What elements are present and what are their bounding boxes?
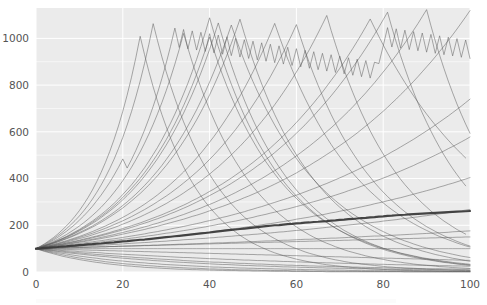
y-tick-label: 600 — [9, 126, 29, 138]
plot-panel-background — [36, 8, 470, 272]
x-axis-tick-labels: 020406080100 — [33, 278, 480, 290]
x-tick-label: 40 — [203, 278, 216, 290]
line-chart: 02004006008001000 020406080100 — [0, 0, 487, 305]
y-tick-label: 1000 — [2, 32, 29, 44]
x-tick-label: 20 — [116, 278, 129, 290]
y-tick-label: 0 — [22, 266, 29, 278]
x-tick-label: 0 — [33, 278, 40, 290]
x-tick-label: 100 — [460, 278, 480, 290]
y-axis-tick-labels: 02004006008001000 — [2, 32, 29, 278]
y-tick-label: 400 — [9, 172, 29, 184]
y-tick-label: 200 — [9, 219, 29, 231]
figure: 02004006008001000 020406080100 — [0, 0, 487, 305]
x-tick-label: 60 — [290, 278, 303, 290]
plot-area: 02004006008001000 020406080100 — [0, 0, 487, 305]
x-tick-label: 80 — [377, 278, 390, 290]
bottom-edge-artifact — [36, 299, 396, 303]
y-tick-label: 800 — [9, 79, 29, 91]
